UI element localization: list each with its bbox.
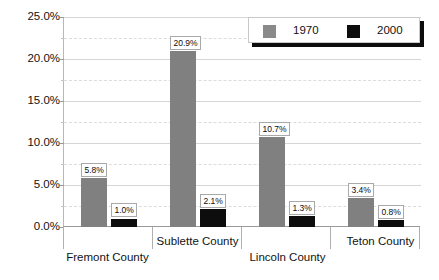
bar-lincoln-county-2000[interactable] — [289, 216, 315, 227]
bar-teton-county-1970[interactable] — [348, 198, 374, 227]
x-tick-label-teton-county: Teton County — [333, 236, 428, 248]
bar-label-lincoln-county-2000: 1.3% — [289, 201, 315, 215]
legend-swatch-2000-icon — [347, 25, 360, 38]
y-tick-label-5: 5.0% — [2, 179, 60, 191]
chart-legend: 1970 2000 — [248, 17, 420, 43]
legend-item-1970[interactable]: 1970 — [263, 18, 319, 44]
legend-label-2000: 2000 — [377, 25, 403, 37]
bar-label-fremont-county-1970: 5.8% — [81, 163, 107, 177]
y-tick-label-0: 0.0% — [2, 221, 60, 233]
bar-fremont-county-1970[interactable] — [81, 178, 107, 227]
bar-label-teton-county-2000: 0.8% — [378, 205, 404, 219]
category-separator-3 — [330, 227, 331, 249]
bar-sublette-county-2000[interactable] — [200, 209, 226, 227]
bar-teton-county-2000[interactable] — [378, 220, 404, 227]
bar-chart: 25.0% 20.0% 15.0% 10.0% 5.0% 0.0% — [0, 0, 439, 280]
y-tick-label-25: 25.0% — [2, 11, 60, 23]
bar-group-fremont-county: 5.8% 1.0% — [79, 17, 152, 227]
y-tick-label-15: 15.0% — [2, 95, 60, 107]
bar-label-sublette-county-2000: 2.1% — [200, 194, 226, 208]
bar-label-sublette-county-1970: 20.9% — [170, 36, 201, 50]
y-tick-label-10: 10.0% — [2, 137, 60, 149]
legend-item-2000[interactable]: 2000 — [347, 18, 403, 44]
bar-group-lincoln-county: 10.7% 1.3% — [257, 17, 330, 227]
bar-label-fremont-county-2000: 1.0% — [111, 203, 137, 217]
bar-label-lincoln-county-1970: 10.7% — [259, 122, 290, 136]
x-tick-label-lincoln-county: Lincoln County — [240, 252, 335, 264]
bars-layer: 5.8% 1.0% 20.9% 2.1% 10.7% 1.3% 3.4% 0.8… — [63, 17, 420, 227]
legend-swatch-1970-icon — [263, 25, 276, 38]
x-tick-label-fremont-county: Fremont County — [60, 252, 155, 264]
y-tick-label-20: 20.0% — [2, 53, 60, 65]
category-separator-0 — [63, 227, 64, 249]
bar-group-teton-county: 3.4% 0.8% — [346, 17, 419, 227]
bar-sublette-county-1970[interactable] — [170, 51, 196, 227]
bar-lincoln-county-1970[interactable] — [259, 137, 285, 227]
y-axis-labels: 25.0% 20.0% 15.0% 10.0% 5.0% 0.0% — [0, 0, 60, 280]
x-tick-label-sublette-county: Sublette County — [150, 236, 245, 248]
bar-group-sublette-county: 20.9% 2.1% — [168, 17, 241, 227]
bar-fremont-county-2000[interactable] — [111, 219, 137, 227]
bar-label-teton-county-1970: 3.4% — [348, 183, 374, 197]
legend-label-1970: 1970 — [293, 25, 319, 37]
